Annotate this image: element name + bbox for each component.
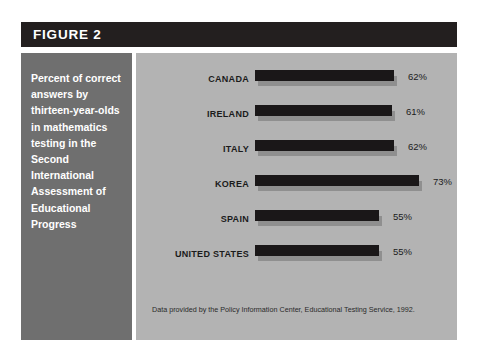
bar-value-label: 61% — [406, 106, 425, 117]
bar-fill — [255, 70, 394, 81]
bar-row: CANADA62% — [136, 70, 457, 105]
bar-track — [255, 175, 422, 197]
bar-value-label: 62% — [408, 71, 427, 82]
bar-category-label: ITALY — [136, 144, 249, 154]
figure-caption-text: Percent of correct answers by thirteen-y… — [31, 70, 126, 232]
bar-row: UNITED STATES55% — [136, 245, 457, 280]
bar-value-label: 55% — [393, 246, 412, 257]
bar-category-label: IRELAND — [136, 109, 249, 119]
bar-track — [255, 105, 395, 127]
bar-fill — [255, 105, 392, 116]
bar-track — [255, 245, 382, 267]
figure-caption-panel: Percent of correct answers by thirteen-y… — [21, 53, 132, 340]
bar-row: IRELAND61% — [136, 105, 457, 140]
bar-value-label: 55% — [393, 211, 412, 222]
bar-category-label: KOREA — [136, 179, 249, 189]
bar-fill — [255, 175, 419, 186]
figure-number-label: FIGURE 2 — [33, 27, 102, 42]
bar-value-label: 62% — [408, 141, 427, 152]
bar-fill — [255, 140, 394, 151]
bar-row: ITALY62% — [136, 140, 457, 175]
bar-chart-plot-area: CANADA62%IRELAND61%ITALY62%KOREA73%SPAIN… — [136, 70, 457, 292]
chart-panel: CANADA62%IRELAND61%ITALY62%KOREA73%SPAIN… — [136, 53, 457, 340]
chart-source-note: Data provided by the Policy Information … — [152, 305, 452, 315]
bar-category-label: CANADA — [136, 74, 249, 84]
bar-value-label: 73% — [433, 176, 452, 187]
bar-track — [255, 140, 397, 162]
bar-fill — [255, 210, 379, 221]
bar-row: KOREA73% — [136, 175, 457, 210]
bar-fill — [255, 245, 379, 256]
figure-header-band: FIGURE 2 — [21, 22, 457, 47]
bar-category-label: SPAIN — [136, 214, 249, 224]
bar-category-label: UNITED STATES — [136, 249, 249, 259]
bar-track — [255, 70, 397, 92]
figure-container: FIGURE 2 Percent of correct answers by t… — [21, 22, 457, 340]
bar-row: SPAIN55% — [136, 210, 457, 245]
bar-track — [255, 210, 382, 232]
